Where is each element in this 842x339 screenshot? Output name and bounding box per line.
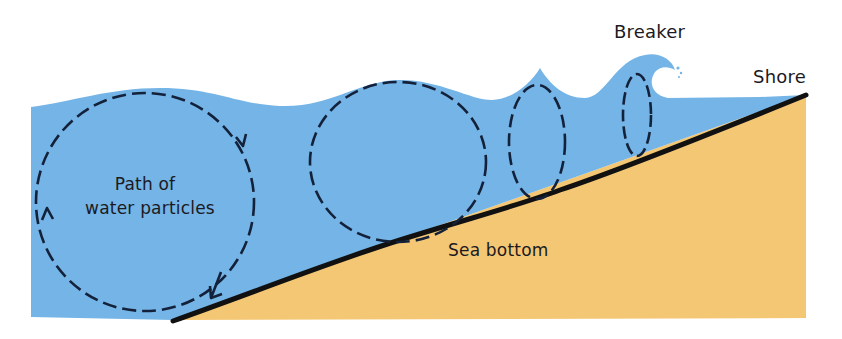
wave-diagram bbox=[0, 0, 842, 339]
spray-droplet bbox=[680, 72, 682, 74]
shore-label: Shore bbox=[753, 67, 806, 87]
spray-droplet bbox=[676, 66, 679, 69]
path-label-line1: Path of bbox=[85, 174, 205, 194]
path-label-line2: water particles bbox=[70, 198, 230, 218]
spray-droplet bbox=[678, 76, 680, 78]
breaker-label: Breaker bbox=[614, 22, 685, 42]
sea-bottom-label: Sea bottom bbox=[448, 240, 549, 260]
